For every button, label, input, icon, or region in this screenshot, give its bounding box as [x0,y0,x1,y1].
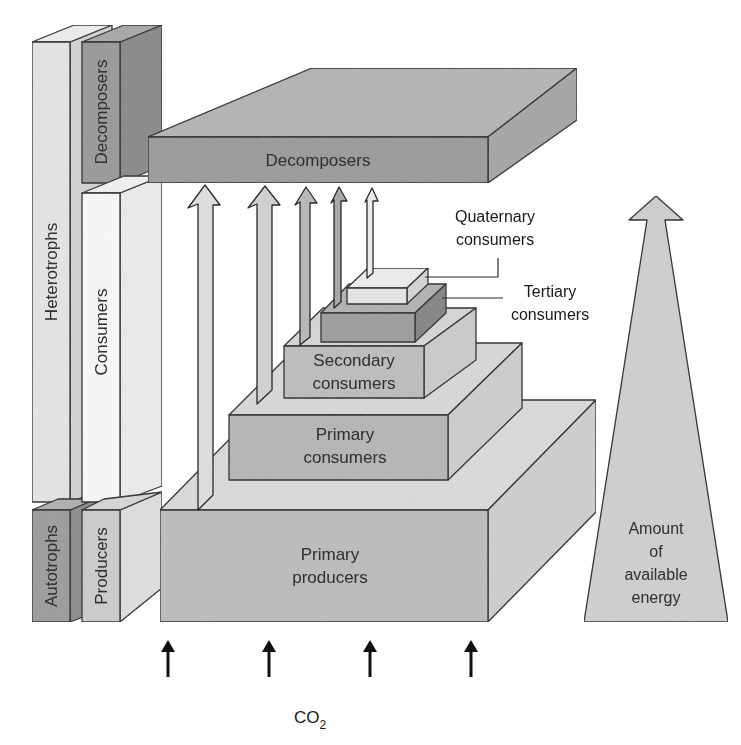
column-consumers: Consumers [82,176,162,502]
callout-tertiary-line2: consumers [511,306,589,323]
column-heterotrophs-label: Heterotrophs [42,223,61,321]
side-columns: Heterotrophs Autotrophs Decomposers Cons… [32,25,162,622]
column-decomposers-label: Decomposers [92,60,111,165]
trophic-pyramid-diagram: Heterotrophs Autotrophs Decomposers Cons… [0,0,741,745]
callout-quaternary-line2: consumers [456,231,534,248]
co2-arrow-1 [161,640,175,677]
callout-quaternary-line1: Quaternary [455,208,535,225]
co2-label-subscript: 2 [320,718,327,732]
column-producers: Producers [82,492,162,622]
co2-arrow-4 [464,640,478,677]
energy-arrow-line2: of [649,543,663,560]
level-primary-consumers-line1: Primary [316,425,375,444]
flow-arrow-5 [365,188,378,278]
energy-arrow: Amount of available energy [584,196,728,622]
callout-quaternary: Quaternary consumers [425,208,535,277]
decomposer-slab: Decomposers [148,68,577,183]
decomposer-slab-label: Decomposers [266,151,371,170]
co2-label-main: CO [294,708,320,727]
column-autotrophs-label: Autotrophs [42,525,61,607]
column-consumers-label: Consumers [92,289,111,376]
co2-label: CO2 [294,708,327,732]
level-primary-producers-line1: Primary [301,545,360,564]
co2-arrow-2 [262,640,276,677]
level-secondary-consumers-line1: Secondary [313,351,395,370]
co2-arrow-3 [363,640,377,677]
co2-input: CO2 [161,640,478,732]
callouts: Quaternary consumers Tertiary consumers [425,208,589,323]
energy-arrow-line4: energy [632,589,681,606]
callout-tertiary-line1: Tertiary [524,283,576,300]
energy-arrow-line3: available [624,566,687,583]
level-primary-producers-line2: producers [292,568,368,587]
energy-arrow-line1: Amount [628,520,684,537]
level-primary-consumers-line2: consumers [303,448,386,467]
level-secondary-consumers-line2: consumers [312,374,395,393]
column-producers-label: Producers [92,527,111,604]
